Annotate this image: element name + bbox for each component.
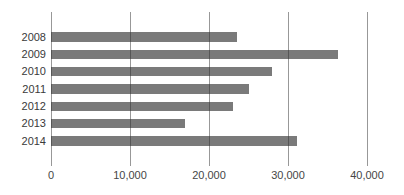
gridline-0 — [51, 12, 52, 166]
bar-2010 — [51, 67, 272, 77]
x-axis-label-20,000: 20,000 — [179, 169, 239, 181]
plot-area — [51, 12, 367, 166]
x-axis-label-40,000: 40,000 — [337, 169, 397, 181]
gridline-10,000 — [130, 12, 131, 166]
bar-2009 — [51, 50, 338, 60]
y-axis-label-2011: 2011 — [6, 84, 46, 95]
y-axis-label-2013: 2013 — [6, 118, 46, 129]
y-axis-label-2012: 2012 — [6, 101, 46, 112]
y-axis-label-2014: 2014 — [6, 136, 46, 147]
bar-chart: 2008200920102011201220132014 010,00020,0… — [0, 0, 404, 195]
gridline-20,000 — [209, 12, 210, 166]
x-axis-label-30,000: 30,000 — [258, 169, 318, 181]
y-axis-label-2009: 2009 — [6, 49, 46, 60]
bar-2014 — [51, 136, 297, 146]
x-axis-label-0: 0 — [21, 169, 81, 181]
y-axis-label-2008: 2008 — [6, 32, 46, 43]
gridline-40,000 — [367, 12, 368, 166]
x-axis-label-10,000: 10,000 — [100, 169, 160, 181]
bar-2012 — [51, 102, 233, 112]
bar-2013 — [51, 119, 185, 129]
y-axis-label-2010: 2010 — [6, 66, 46, 77]
bar-2011 — [51, 84, 249, 94]
gridline-30,000 — [288, 12, 289, 166]
